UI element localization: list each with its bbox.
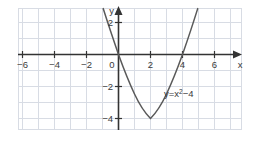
y-tick-label-2: 2 bbox=[108, 17, 113, 28]
y-axis-label: y bbox=[109, 5, 114, 16]
x-tick-label-minus2: −2 bbox=[81, 59, 92, 70]
x-tick-label-zero: 0 bbox=[109, 59, 114, 70]
x-tick-label-6: 6 bbox=[212, 59, 217, 70]
equation-base: y=x bbox=[164, 88, 179, 99]
x-axis-label: x bbox=[238, 59, 243, 70]
y-tick-label-minus2: −2 bbox=[102, 81, 113, 92]
x-tick-label-2: 2 bbox=[148, 59, 153, 70]
equation-annotation: y=x2−4 bbox=[164, 88, 194, 100]
x-tick-label-minus4: −4 bbox=[49, 59, 60, 70]
x-tick-label-minus6: −6 bbox=[17, 59, 28, 70]
x-tick-label-4: 4 bbox=[180, 59, 185, 70]
graph-figure: −6 −4 −2 0 2 4 6 2 −2 −4 y x y=x2−4 bbox=[0, 0, 255, 143]
y-tick-label-minus4: −4 bbox=[102, 113, 113, 124]
equation-tail: −4 bbox=[183, 88, 194, 99]
parabola-plot: −6 −4 −2 0 2 4 6 2 −2 −4 y x y=x2−4 bbox=[0, 0, 255, 143]
